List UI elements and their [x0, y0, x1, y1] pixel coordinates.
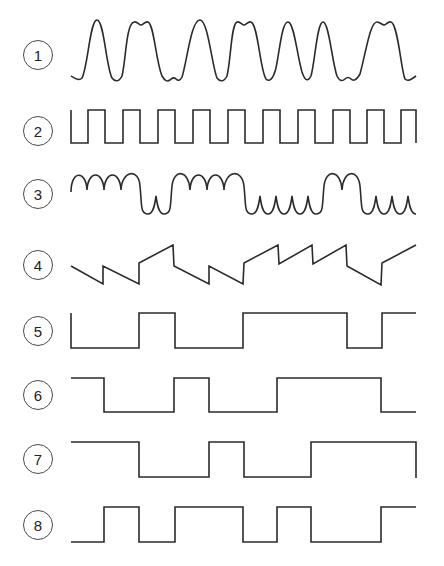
- waveform-7: [71, 442, 416, 478]
- waveform-2: [71, 110, 416, 143]
- waveform-5: [71, 313, 416, 348]
- waveform-1: [71, 20, 416, 81]
- waveform-6: [71, 378, 416, 412]
- waveform-diagram: [0, 0, 444, 566]
- waveform-8: [71, 507, 416, 542]
- waveform-4: [71, 245, 416, 285]
- waveform-3: [71, 174, 416, 214]
